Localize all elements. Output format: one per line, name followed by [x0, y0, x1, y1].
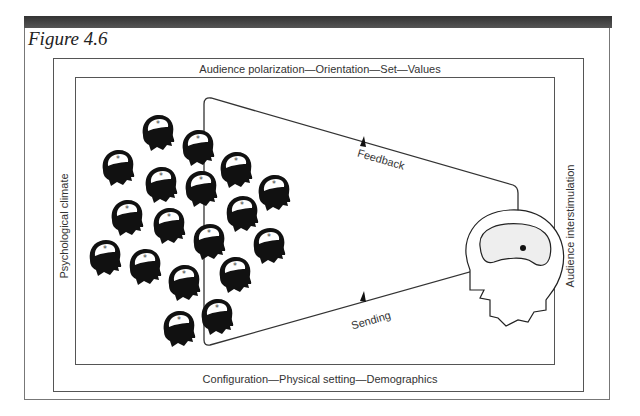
sending-arrow-icon: [360, 291, 366, 302]
communication-diagram: * Feedback Sending: [0, 0, 640, 416]
speaker-head: [466, 210, 564, 326]
speaker-focus-dot: [520, 245, 526, 251]
feedback-label: Feedback: [356, 147, 406, 172]
sending-label: Sending: [350, 309, 392, 332]
audience-heads-cluster: [90, 115, 291, 347]
